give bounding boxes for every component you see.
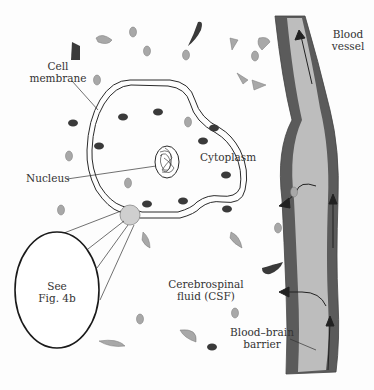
label-line: Blood–brain [230,326,294,338]
label-line: vessel [326,40,370,52]
label-blood-vessel: Blood vessel [326,28,370,52]
label-line: Cell [28,60,88,72]
label-line: Blood [326,28,370,40]
label-line: barrier [230,338,294,350]
label-line: membrane [28,72,88,84]
label-cytoplasm: Cytoplasm [200,151,256,163]
label-nucleus: Nucleus [26,172,70,184]
label-line: fluid (CSF) [168,290,244,302]
label-blood-brain-barrier: Blood–brain barrier [230,326,294,350]
diagram-svg [0,0,374,390]
label-line: See [27,280,87,292]
label-csf: Cerebrospinal fluid (CSF) [168,278,244,302]
nucleus [155,146,179,178]
label-line: Cerebrospinal [168,278,244,290]
label-line: Fig. 4b [27,292,87,304]
label-see-fig: See Fig. 4b [27,280,87,304]
diagram-canvas: Cell membrane Nucleus Cytoplasm See Fig.… [0,0,374,390]
label-cell-membrane: Cell membrane [28,60,88,84]
